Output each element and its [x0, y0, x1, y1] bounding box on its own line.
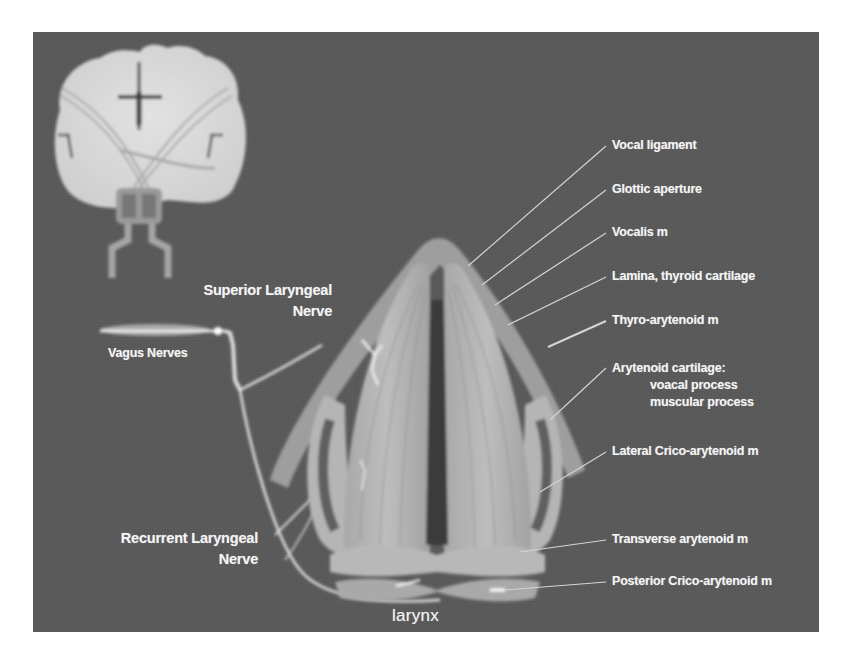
- vagus-nerves-label: Vagus Nerves: [108, 346, 188, 360]
- label-line: Arytenoid cartilage:: [612, 361, 725, 375]
- label-vocalis: Vocalis m: [612, 225, 668, 239]
- label-sub-vocal-process: voacal process: [612, 377, 754, 394]
- larynx-label: larynx: [392, 606, 439, 626]
- superior-laryngeal-nerve-label: Superior Laryngeal Nerve: [186, 280, 332, 322]
- label-glottic-aperture: Glottic aperture: [612, 182, 702, 196]
- label-line: Nerve: [219, 551, 258, 567]
- label-vocal-ligament: Vocal ligament: [612, 138, 697, 152]
- label-lateral-crico-arytenoid: Lateral Crico-arytenoid m: [612, 444, 758, 458]
- brain-inset: [55, 45, 246, 278]
- label-sub-muscular-process: muscular process: [612, 394, 754, 411]
- label-line: Superior Laryngeal: [203, 282, 332, 298]
- label-posterior-crico-arytenoid: Posterior Crico-arytenoid m: [612, 574, 772, 588]
- recurrent-laryngeal-nerve-label: Recurrent Laryngeal Nerve: [90, 528, 258, 570]
- label-lamina-thyroid-cartilage: Lamina, thyroid cartilage: [612, 269, 755, 283]
- label-arytenoid-cartilage: Arytenoid cartilage: voacal process musc…: [612, 360, 754, 411]
- label-transverse-arytenoid: Transverse arytenoid m: [612, 532, 748, 546]
- label-line: Recurrent Laryngeal: [121, 530, 258, 546]
- label-line: Nerve: [293, 303, 332, 319]
- label-thyro-arytenoid: Thyro-arytenoid m: [612, 313, 718, 327]
